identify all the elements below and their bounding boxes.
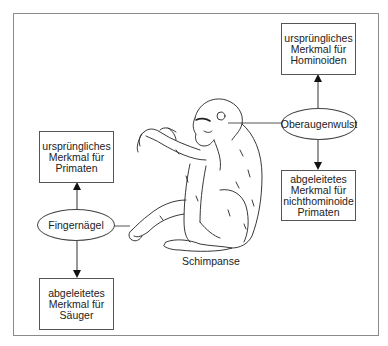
box-text-line: nichthominoide	[283, 196, 354, 207]
chimpanzee-illustration	[129, 99, 262, 251]
box-text-line: Primaten	[42, 163, 110, 174]
box-text-line: Säuger	[48, 310, 105, 321]
box-primitive-primates: ursprüngliches Merkmal für Primaten	[39, 131, 114, 183]
box-text-line: Hominoiden	[284, 55, 352, 66]
box-text-line: abgeleitetes	[283, 174, 354, 185]
box-derived-mammals: abgeleitetes Merkmal für Säuger	[39, 278, 114, 330]
box-text-line: Merkmal für	[48, 299, 105, 310]
box-text-line: abgeleitetes	[48, 288, 105, 299]
box-text-line: ursprüngliches	[42, 141, 110, 152]
trait-ellipse-brow-ridge: Oberaugenwulst	[281, 108, 357, 140]
trait-label: Fingernägel	[48, 219, 103, 231]
box-text-line: Merkmal für	[42, 152, 110, 163]
box-derived-nonhominoid-primates: abgeleitetes Merkmal für nichthominoide …	[281, 170, 356, 221]
trait-label: Oberaugenwulst	[281, 118, 357, 130]
trait-ellipse-fingernails: Fingernägel	[37, 209, 115, 241]
subject-caption: Schimpanse	[182, 255, 240, 267]
box-text-line: Merkmal für	[284, 44, 352, 55]
box-primitive-hominoids: ursprüngliches Merkmal für Hominoiden	[281, 23, 356, 75]
box-text-line: Merkmal für	[283, 185, 354, 196]
box-text-line: Primaten	[283, 207, 354, 218]
box-text-line: ursprüngliches	[284, 33, 352, 44]
